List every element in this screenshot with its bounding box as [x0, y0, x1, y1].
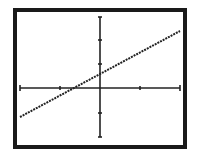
- y-axis: [98, 17, 102, 137]
- graph-plot: [0, 0, 199, 155]
